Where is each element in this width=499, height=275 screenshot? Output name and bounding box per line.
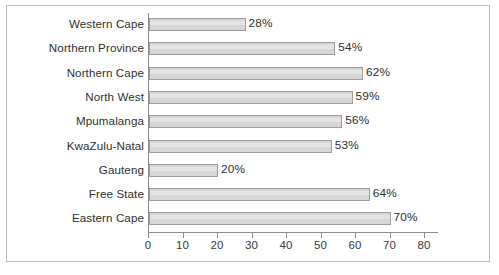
bar-value-label: 70% [394, 210, 418, 224]
x-axis-tick [183, 233, 184, 238]
category-label: Free State [89, 187, 144, 200]
category-label: Western Cape [69, 17, 144, 30]
bar-value-label: 64% [373, 186, 397, 200]
x-axis-tick-label: 50 [306, 239, 336, 251]
x-axis-tick-label: 20 [202, 239, 232, 251]
x-axis-tick [252, 233, 253, 238]
x-axis-tick-label: 80 [409, 239, 439, 251]
category-label: Northern Province [49, 41, 144, 54]
bar-value-label: 53% [335, 138, 359, 152]
bar [149, 140, 332, 153]
bar-row: Free State64% [0, 183, 499, 207]
x-axis-tick [286, 233, 287, 238]
bar-value-label: 20% [221, 162, 245, 176]
category-label: North West [85, 90, 144, 103]
chart-screenshot: 01020304050607080 Western Cape28%Norther… [0, 0, 499, 275]
x-axis-tick-label: 0 [133, 239, 163, 251]
bar-value-label: 28% [249, 16, 273, 30]
bar-row: Gauteng20% [0, 159, 499, 183]
x-axis-tick-label: 40 [271, 239, 301, 251]
x-axis-tick [321, 233, 322, 238]
category-label: Northern Cape [67, 66, 144, 79]
bar [149, 188, 370, 201]
bar-value-label: 54% [338, 40, 362, 54]
category-label: Gauteng [99, 163, 144, 176]
x-axis-tick-label: 60 [340, 239, 370, 251]
plot-area: 01020304050607080 Western Cape28%Norther… [0, 0, 499, 275]
x-axis-tick-label: 30 [237, 239, 267, 251]
category-label: Eastern Cape [72, 211, 144, 224]
bar-value-label: 62% [366, 65, 390, 79]
bar-row: Western Cape28% [0, 13, 499, 37]
bar-row: Eastern Cape70% [0, 207, 499, 231]
bar-row: North West59% [0, 86, 499, 110]
x-axis-tick [390, 233, 391, 238]
bar-row: Mpumalanga56% [0, 110, 499, 134]
bar-value-label: 56% [345, 113, 369, 127]
bar [149, 67, 363, 80]
x-axis-tick [148, 233, 149, 238]
bar [149, 18, 246, 31]
category-label: KwaZulu-Natal [67, 139, 144, 152]
x-axis-tick [217, 233, 218, 238]
x-axis-tick-label: 10 [168, 239, 198, 251]
x-axis-tick-label: 70 [375, 239, 405, 251]
bar [149, 164, 218, 177]
x-axis-tick [424, 233, 425, 238]
category-label: Mpumalanga [76, 114, 144, 127]
bar-row: Northern Cape62% [0, 62, 499, 86]
bar [149, 212, 391, 225]
x-axis-tick [355, 233, 356, 238]
bar [149, 115, 342, 128]
x-axis-line [148, 232, 438, 233]
bar-row: KwaZulu-Natal53% [0, 135, 499, 159]
bar [149, 91, 353, 104]
bar-value-label: 59% [356, 89, 380, 103]
bar [149, 42, 335, 55]
bar-row: Northern Province54% [0, 37, 499, 61]
